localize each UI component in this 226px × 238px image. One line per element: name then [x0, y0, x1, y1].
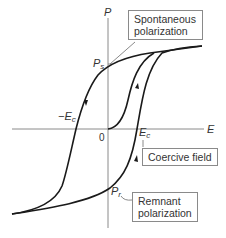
initial-polarization-curve [108, 53, 154, 129]
upper-branch-curve [12, 46, 202, 214]
arrow-up-icon [134, 155, 138, 162]
spontaneous-leader [110, 42, 135, 64]
pr-label: Pr [111, 186, 121, 199]
remnant-polarization-callout: Remnant polarization [132, 192, 198, 222]
ps-label: Ps [93, 58, 104, 71]
neg-ec-label: −Ec [58, 111, 76, 124]
arrow-up-initial-icon [135, 83, 139, 89]
spontaneous-polarization-callout: Spontaneous polarization [128, 10, 203, 40]
remnant-leader [121, 196, 132, 200]
p-axis-label: P [104, 7, 111, 18]
ec-label: Ec [139, 127, 150, 140]
coercive-field-callout: Coercive field [142, 148, 218, 166]
e-axis-label: E [207, 124, 214, 135]
hysteresis-diagram: P E 0 Ps Ec −Ec Pr Spontaneous polarizat… [0, 0, 226, 238]
origin-label: 0 [99, 133, 105, 143]
lower-branch-curve [12, 46, 202, 214]
